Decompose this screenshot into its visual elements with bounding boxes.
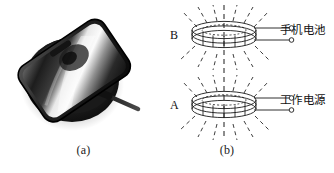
open-circle-terminal-b-lower	[289, 38, 294, 43]
phone-on-wireless-charging-pad-photo	[8, 10, 158, 138]
panel-b: B A 手机电池 工作电源	[167, 0, 334, 173]
caption-b: (b)	[167, 143, 287, 158]
coil-b-group	[180, 5, 294, 70]
caption-a: (a)	[0, 143, 167, 158]
open-circle-terminal-a-lower	[289, 108, 294, 113]
panel-a: (a)	[0, 0, 167, 173]
coil-a-group	[180, 75, 294, 140]
open-circle-terminal-b-upper	[289, 26, 294, 31]
figure-root: (a) B A 手机电池 工作电源	[0, 0, 334, 173]
photo-svg	[8, 10, 158, 138]
open-circle-terminal-a-upper	[289, 96, 294, 101]
